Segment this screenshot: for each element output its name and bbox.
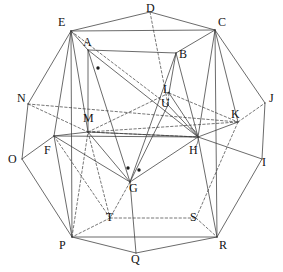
edge-lh	[169, 93, 198, 137]
edge-pq	[72, 237, 136, 253]
edge-cr	[215, 30, 217, 237]
hidden-edge-kj	[238, 103, 265, 122]
edge-ag	[88, 50, 130, 182]
edge-ch	[198, 30, 215, 137]
edge-ug	[130, 105, 168, 182]
dot-left-of-G	[126, 166, 129, 169]
edge-bh	[176, 53, 198, 137]
vertex-label-h: H	[189, 144, 198, 156]
vertex-label-s: S	[190, 211, 197, 223]
edge-gh	[130, 137, 198, 182]
vertex-label-e: E	[58, 16, 65, 28]
edge-fg	[54, 136, 130, 182]
vertex-label-m: M	[83, 112, 94, 124]
vertex-label-q: Q	[131, 253, 140, 265]
edge-qr	[136, 237, 217, 253]
figure-canvas	[0, 0, 283, 272]
hidden-edge-tp	[72, 218, 110, 237]
vertex-label-p: P	[59, 239, 66, 251]
vertex-label-g: G	[129, 182, 138, 194]
edge-mg	[88, 132, 130, 182]
edge-no	[22, 104, 28, 159]
edge-ab	[88, 50, 176, 53]
edge-cj	[215, 30, 265, 103]
vertex-label-j: J	[269, 92, 274, 104]
vertex-label-b: B	[179, 48, 187, 60]
dot-right-of-G	[137, 168, 140, 171]
vertex-label-k: K	[231, 108, 240, 120]
vertex-label-t: T	[106, 211, 113, 223]
hidden-edge-nk	[28, 104, 238, 122]
vertex-label-l: L	[163, 83, 170, 95]
edge-fm	[54, 132, 88, 136]
visible-edges-group	[22, 12, 265, 253]
edge-op	[22, 159, 72, 237]
hidden-edge-pm	[72, 132, 88, 237]
dot-near-A	[96, 66, 99, 69]
hidden-edges-group	[28, 12, 265, 237]
vertex-label-a: A	[83, 36, 92, 48]
vertex-label-n: N	[17, 92, 26, 104]
vertex-label-u: U	[161, 97, 170, 109]
edge-ec	[71, 30, 215, 31]
edge-fp	[54, 136, 72, 237]
edge-dc	[150, 12, 215, 30]
vertex-label-f: F	[44, 144, 51, 156]
edge-en	[28, 31, 71, 104]
vertex-label-o: O	[8, 153, 17, 165]
vertex-label-c: C	[218, 16, 226, 28]
edge-ir	[217, 159, 262, 237]
vertex-label-r: R	[219, 239, 227, 251]
vertex-label-d: D	[146, 2, 155, 14]
edge-ed	[71, 12, 150, 31]
edge-bg	[130, 53, 176, 182]
geometry-figure: ABCDEFGHIJKLMNOPQRSTU	[0, 0, 283, 272]
vertex-label-i: I	[262, 156, 266, 168]
edge-ji	[262, 103, 265, 159]
point-marks-group	[96, 66, 140, 171]
